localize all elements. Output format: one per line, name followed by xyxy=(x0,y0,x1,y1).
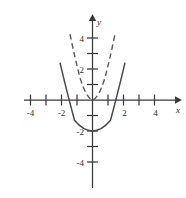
x-tick-label-pos2: 2 xyxy=(122,108,127,118)
y-tick-label-neg4: -4 xyxy=(77,158,85,168)
graph-figure: -4 -2 2 4 4 2 -2 -4 x y xyxy=(0,0,186,198)
x-tick-label-neg4: -4 xyxy=(27,108,35,118)
x-axis-arrowhead xyxy=(175,96,182,103)
y-axis-arrowhead xyxy=(89,14,96,21)
x-tick-label-neg2: -2 xyxy=(58,108,66,118)
y-axis-label: y xyxy=(96,17,101,27)
y-tick-label-pos4: 4 xyxy=(80,34,85,44)
x-tick-label-pos4: 4 xyxy=(153,108,158,118)
cartesian-plot: -4 -2 2 4 4 2 -2 -4 x y xyxy=(0,0,186,198)
y-tick-label-neg2: -2 xyxy=(77,127,85,137)
y-tick-label-pos2: 2 xyxy=(80,65,85,75)
axes-group xyxy=(24,14,182,188)
x-axis-label: x xyxy=(175,105,180,115)
